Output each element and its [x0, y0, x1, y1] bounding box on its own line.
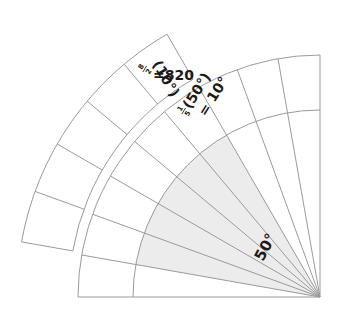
outer-band-divider-160 [35, 191, 84, 209]
shaded-50-degree-sector [136, 135, 320, 297]
shaded-sector [136, 135, 320, 297]
outer-label-line2: =820 [153, 67, 194, 83]
outer-band-divider-150 [57, 144, 102, 170]
outer-band-divider-140 [87, 101, 127, 134]
sector-diagram: 50° 1 5 (50°) = 10° 8 2 (10°) =820 [0, 0, 343, 313]
outer-band-divider-170 [22, 242, 73, 251]
